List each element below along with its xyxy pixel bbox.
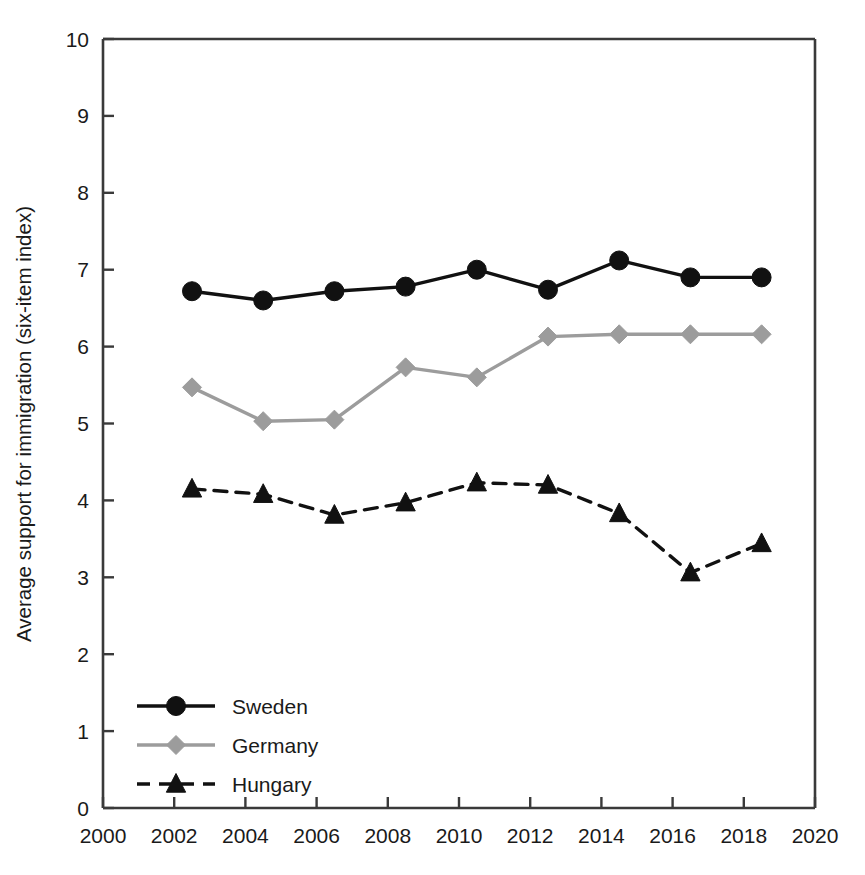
data-point-sweden-5	[539, 280, 558, 299]
y-tick-label-10: 10	[66, 28, 89, 51]
data-point-sweden-3	[396, 277, 415, 296]
x-tick-label-2014: 2014	[578, 824, 625, 847]
y-tick-label-1: 1	[77, 720, 89, 743]
x-tick-label-2010: 2010	[436, 824, 483, 847]
legend-label-hungary: Hungary	[232, 773, 312, 796]
x-tick-label-2004: 2004	[222, 824, 269, 847]
data-point-sweden-1	[254, 291, 273, 310]
y-tick-label-3: 3	[77, 566, 89, 589]
data-point-sweden-8	[752, 268, 771, 287]
x-tick-label-2002: 2002	[151, 824, 198, 847]
legend-label-sweden: Sweden	[232, 695, 308, 718]
y-tick-label-0: 0	[77, 797, 89, 820]
data-point-sweden-7	[681, 268, 700, 287]
line-chart: 012345678910 200020022004200620082010201…	[0, 0, 865, 875]
chart-background	[0, 0, 865, 875]
legend-marker-sweden	[167, 697, 186, 716]
legend-label-germany: Germany	[232, 734, 319, 757]
y-tick-label-9: 9	[77, 104, 89, 127]
y-axis-title: Average support for immigration (six-ite…	[12, 206, 35, 642]
x-tick-label-2016: 2016	[649, 824, 696, 847]
x-tick-label-2018: 2018	[720, 824, 767, 847]
chart-figure: 012345678910 200020022004200620082010201…	[0, 0, 865, 875]
y-tick-label-4: 4	[77, 489, 89, 512]
x-tick-label-2020: 2020	[792, 824, 839, 847]
x-tick-label-2012: 2012	[507, 824, 554, 847]
x-tick-label-2008: 2008	[364, 824, 411, 847]
y-tick-label-6: 6	[77, 335, 89, 358]
data-point-sweden-2	[325, 282, 344, 301]
y-tick-label-2: 2	[77, 643, 89, 666]
data-point-sweden-6	[610, 251, 629, 270]
x-tick-label-2000: 2000	[80, 824, 127, 847]
y-tick-label-8: 8	[77, 181, 89, 204]
data-point-sweden-0	[183, 282, 202, 301]
y-tick-label-7: 7	[77, 258, 89, 281]
data-point-sweden-4	[467, 260, 486, 279]
x-axis-tick-labels: 2000200220042006200820102012201420162018…	[80, 824, 839, 847]
y-tick-label-5: 5	[77, 412, 89, 435]
x-tick-label-2006: 2006	[293, 824, 340, 847]
